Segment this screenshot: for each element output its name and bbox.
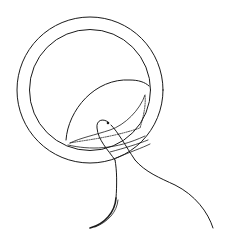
suture-tail — [135, 160, 213, 228]
diagram-figure — [0, 0, 228, 237]
leaflet-base — [68, 136, 145, 148]
suture-knot — [107, 122, 110, 125]
diagram-canvas — [0, 0, 228, 237]
outer-ring — [17, 17, 163, 163]
needle — [90, 198, 116, 228]
needle-thread — [115, 160, 117, 198]
inner-ring — [30, 30, 151, 151]
suture-cross-2 — [116, 144, 150, 158]
